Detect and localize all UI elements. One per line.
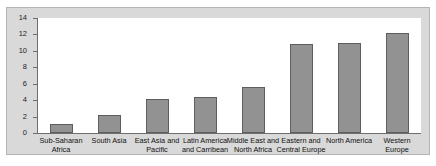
x-axis-label: North America: [322, 136, 376, 145]
y-axis-tick: 4: [33, 100, 37, 101]
y-axis-tick: 14: [33, 18, 37, 19]
x-axis-label-line: South Asia: [82, 136, 136, 145]
y-axis-tick: 10: [33, 51, 37, 52]
y-axis-tick: 2: [33, 117, 37, 118]
y-axis-tick-label: 0: [23, 127, 27, 138]
x-axis-label-line: Sub-Saharan: [34, 136, 88, 145]
x-axis-label-line: Western: [370, 136, 424, 145]
bar: [242, 87, 265, 133]
bar: [290, 44, 313, 133]
bar: [50, 124, 73, 133]
y-axis-tick-label: 6: [23, 78, 27, 89]
y-axis-tick: 6: [33, 84, 37, 85]
y-axis-line: [37, 18, 38, 134]
bar: [98, 115, 121, 133]
x-axis-label: WesternEurope: [370, 136, 424, 155]
x-axis-label: East Asia andPacific: [130, 136, 184, 155]
y-axis-tick: 8: [33, 67, 37, 68]
bar: [338, 43, 361, 133]
x-axis-label-line: Africa: [34, 145, 88, 154]
x-axis-label-line: Middle East and: [226, 136, 280, 145]
y-axis-tick-label: 10: [19, 45, 27, 56]
bar: [146, 99, 169, 134]
x-axis-line: [37, 133, 421, 134]
x-axis-label: Latin Americaand Carribean: [178, 136, 232, 155]
y-axis-tick-label: 4: [23, 94, 27, 105]
y-axis-tick-label: 14: [19, 12, 27, 23]
y-axis-tick-label: 2: [23, 111, 27, 122]
x-axis-label-line: Latin America: [178, 136, 232, 145]
plot-frame: 02468101214: [37, 18, 421, 134]
x-axis-label: Sub-SaharanAfrica: [34, 136, 88, 155]
x-axis-label-line: North America: [322, 136, 376, 145]
plot-area: 02468101214: [37, 18, 421, 134]
y-axis-tick-label: 8: [23, 61, 27, 72]
x-axis-label-line: Pacific: [130, 145, 184, 154]
x-axis-label: South Asia: [82, 136, 136, 145]
y-axis-tick: 0: [33, 133, 37, 134]
y-axis-tick: 12: [33, 34, 37, 35]
x-axis-label-line: Central Europe: [274, 145, 328, 154]
x-axis-label-line: North Africa: [226, 145, 280, 154]
x-axis-label: Eastern andCentral Europe: [274, 136, 328, 155]
x-axis-label: Middle East andNorth Africa: [226, 136, 280, 155]
chart-panel: 02468101214 Sub-SaharanAfricaSouth AsiaE…: [6, 7, 430, 155]
x-axis-label-line: Eastern and: [274, 136, 328, 145]
x-axis-label-line: and Carribean: [178, 145, 232, 154]
bar: [386, 33, 409, 133]
x-axis-label-line: East Asia and: [130, 136, 184, 145]
bar: [194, 97, 217, 133]
y-axis-tick-label: 12: [19, 28, 27, 39]
x-axis-label-line: Europe: [370, 145, 424, 154]
